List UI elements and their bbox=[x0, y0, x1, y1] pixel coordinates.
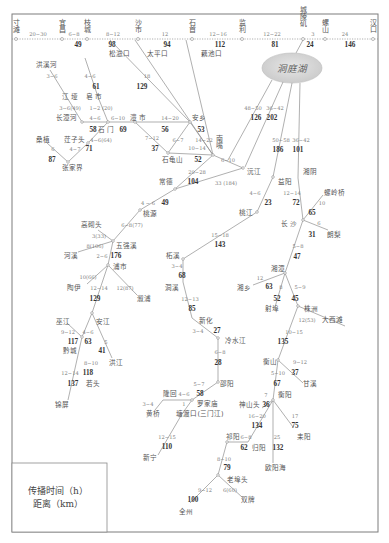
travel-time-label: 36~42 bbox=[292, 137, 310, 143]
distance-label: 135 bbox=[278, 338, 289, 346]
station-hengshan: 衡山 bbox=[263, 357, 277, 366]
distance-label: 104 bbox=[188, 178, 199, 186]
travel-time-label: 9~12 bbox=[293, 359, 307, 365]
legend-distance-label: 距离（km） bbox=[33, 498, 83, 509]
distance-label: 100 bbox=[188, 496, 199, 504]
node bbox=[87, 142, 90, 145]
station-nanzui: 南嘴 bbox=[215, 134, 224, 150]
distance-label: 117 bbox=[68, 338, 79, 346]
travel-time-label: 12~22 bbox=[263, 31, 281, 37]
node bbox=[272, 399, 275, 402]
distance-label: 58 bbox=[89, 126, 97, 134]
station-pushi: 浦市 bbox=[113, 262, 127, 271]
station-ruotou: 若头 bbox=[86, 379, 100, 388]
travel-time-label: 20~30 bbox=[29, 31, 47, 37]
travel-time-label: 8~12 bbox=[106, 31, 120, 37]
station-longhui: 隆回 bbox=[163, 389, 177, 398]
station-shimen: 石 门 bbox=[98, 125, 114, 134]
node-luoshan bbox=[324, 38, 327, 41]
travel-time-label: 6~8 bbox=[241, 434, 252, 440]
travel-time-label: 5 bbox=[104, 339, 107, 345]
travel-time-label: 10~15 bbox=[285, 329, 303, 335]
distance-label: 49 bbox=[74, 41, 82, 49]
diagram-frame bbox=[12, 14, 378, 532]
travel-time-label: 3~6 bbox=[47, 73, 58, 79]
distance-label: 72 bbox=[292, 199, 300, 207]
travel-time-label: 16~20 bbox=[248, 413, 266, 419]
distance-label: 101 bbox=[293, 146, 304, 154]
station-gaoqitou: 高砌头 bbox=[81, 220, 102, 229]
river-segment bbox=[168, 153, 213, 155]
station-shebu: 射埠 bbox=[265, 304, 279, 313]
distance-label: 137 bbox=[68, 380, 79, 388]
node bbox=[107, 121, 110, 124]
station-xinning: 新宁 bbox=[143, 453, 157, 462]
travel-time-label: 4~6 bbox=[90, 115, 101, 121]
travel-time-label: 12 bbox=[162, 31, 169, 37]
travel-time-label: 24 bbox=[342, 31, 349, 37]
station-qiyang: 祁阳 bbox=[226, 432, 240, 441]
station-xupu: 溆浦 bbox=[137, 294, 151, 303]
distance-label: 146 bbox=[345, 41, 356, 49]
station-hengyang: 衡阳 bbox=[278, 390, 292, 399]
segment-labels: 18 129 48~50 126 36~42 202 50~58 186 36~… bbox=[47, 73, 326, 504]
station-yichang: 宜昌 bbox=[58, 18, 67, 34]
travel-time-label: 10(66) bbox=[79, 274, 96, 280]
distance-label: 52 bbox=[273, 295, 281, 303]
travel-time-label: 6 bbox=[317, 220, 320, 226]
travel-time-label: 4~6 bbox=[250, 190, 261, 196]
station-hexi: 河溪 bbox=[64, 251, 78, 260]
node bbox=[81, 336, 84, 339]
station-chenglingji: 城陵矶 bbox=[299, 6, 308, 28]
dongting-lake-label: 洞庭湖 bbox=[277, 63, 308, 74]
distance-label: 31 bbox=[308, 231, 316, 239]
travel-time-label: 10 bbox=[319, 200, 326, 206]
travel-time-label: 5~9 bbox=[295, 284, 306, 290]
distance-label: 129 bbox=[137, 83, 148, 91]
node bbox=[242, 167, 245, 170]
node bbox=[81, 121, 84, 124]
travel-time-label: 15~18 bbox=[211, 232, 229, 238]
station-shaoyang: 邵阳 bbox=[220, 379, 234, 388]
travel-time-label: 2~6 bbox=[97, 253, 108, 259]
travel-time-label: 12~14 bbox=[90, 285, 108, 291]
station-jianli: 监利 bbox=[238, 18, 247, 33]
node bbox=[256, 211, 259, 214]
travel-time-label: 8~10 bbox=[217, 456, 231, 462]
node bbox=[297, 305, 300, 308]
node bbox=[217, 474, 220, 477]
travel-time-label: 12~14 bbox=[283, 190, 301, 196]
travel-time-label: 12(87) bbox=[116, 285, 133, 291]
travel-time-label: 5~10 bbox=[271, 370, 285, 376]
node bbox=[217, 381, 220, 384]
station-sangzhi: 桑植 bbox=[36, 135, 50, 144]
distance-label: 58 bbox=[196, 390, 204, 398]
node bbox=[302, 219, 305, 222]
travel-time-label: 6~8(77) bbox=[121, 222, 143, 228]
distance-label: 37 bbox=[291, 369, 299, 377]
distance-label: 118 bbox=[83, 369, 94, 377]
node bbox=[226, 441, 229, 444]
station-xinhua: 新化 bbox=[199, 316, 213, 325]
node-shashi bbox=[137, 38, 140, 41]
distance-label: 176 bbox=[111, 252, 122, 260]
travel-time-label: 1~2 (20) bbox=[89, 105, 112, 111]
distance-label: 69 bbox=[119, 126, 127, 134]
distance-label: 67 bbox=[273, 380, 281, 388]
distance-label: 45 bbox=[291, 295, 299, 303]
station-changsha: 长 沙 bbox=[281, 219, 297, 228]
distance-label: 202 bbox=[267, 114, 278, 122]
station-shishou: 石首 bbox=[188, 19, 197, 34]
river-segment bbox=[273, 83, 292, 177]
distance-label: 71 bbox=[85, 145, 93, 153]
station-taojiang: 桃江 bbox=[239, 208, 253, 217]
node bbox=[174, 188, 177, 191]
distance-label: 27 bbox=[213, 327, 221, 335]
distance-label: 81 bbox=[271, 41, 279, 49]
distance-label: 85 bbox=[188, 305, 196, 313]
station-daxitan: 大西滩 bbox=[322, 315, 343, 324]
distance-label: 63 bbox=[84, 338, 92, 346]
travel-time-label: 9~12 bbox=[61, 329, 75, 335]
distance-label: 110 bbox=[162, 443, 173, 451]
travel-time-label: 6~10 bbox=[111, 115, 125, 121]
